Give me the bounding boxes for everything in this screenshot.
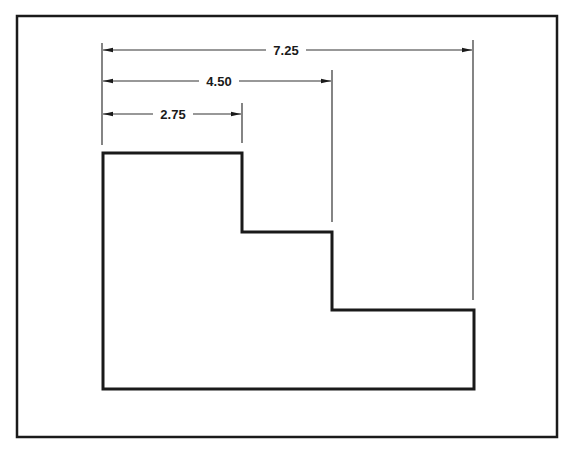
dimension-4-50: 4.50	[206, 74, 231, 89]
dimensioned-drawing: 7.25 4.50 2.75	[0, 0, 569, 451]
dimension-label-2-75: 2.75	[160, 107, 185, 122]
dimension-label-4-50: 4.50	[206, 74, 231, 89]
dimension-label-7-25: 7.25	[273, 43, 298, 58]
extension-lines	[102, 40, 473, 300]
dimension-lines	[103, 50, 472, 114]
dimension-2-75: 2.75	[160, 107, 185, 122]
dimension-7-25: 7.25	[273, 43, 298, 58]
drawing-frame	[17, 16, 557, 437]
stepped-profile-shape	[103, 153, 474, 389]
